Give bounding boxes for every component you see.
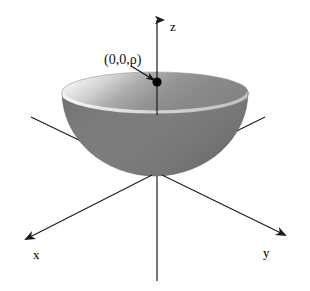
apex-point-dot <box>152 77 161 86</box>
x-axis-front-segment <box>26 175 152 239</box>
y-axis-front-segment <box>162 175 285 235</box>
z-axis-label: z <box>170 19 176 34</box>
hemisphere-diagram: (0,0,ρ) z x y <box>0 0 310 291</box>
apex-point-label: (0,0,ρ) <box>104 52 142 68</box>
y-axis-label: y <box>263 245 270 260</box>
x-axis-label: x <box>33 247 40 262</box>
figure-canvas: (0,0,ρ) z x y <box>0 0 310 291</box>
hemisphere-bowl <box>62 72 248 176</box>
axis-front-segments <box>26 175 285 239</box>
